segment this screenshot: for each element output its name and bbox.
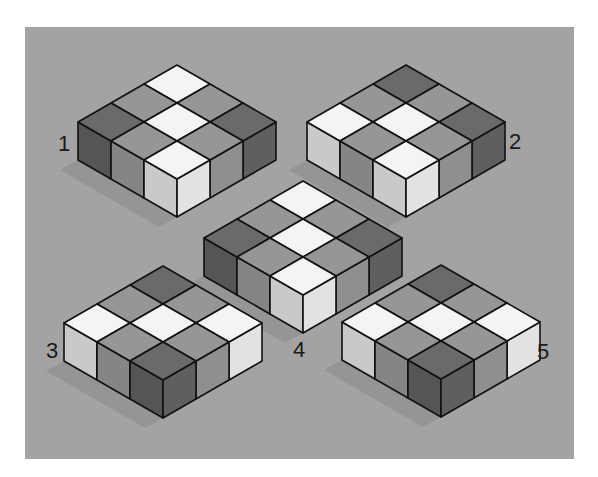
figure-label-3: 3 bbox=[46, 340, 58, 362]
figure-label-1: 1 bbox=[58, 133, 70, 155]
figure-label-4: 4 bbox=[293, 339, 305, 361]
isometric-cube-figures bbox=[0, 0, 598, 477]
figure-label-2: 2 bbox=[509, 131, 521, 153]
figure-label-5: 5 bbox=[537, 341, 549, 363]
figure-1 bbox=[60, 65, 276, 227]
